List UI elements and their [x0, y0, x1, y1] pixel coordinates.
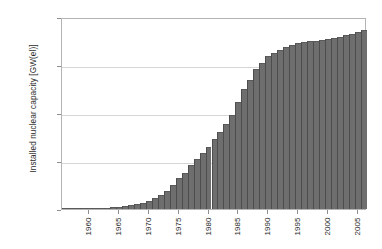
- x-axis-tick-mark: [118, 210, 119, 214]
- x-axis-tick-mark: [357, 210, 358, 214]
- x-axis-tick-label: 1960: [83, 210, 92, 244]
- bar: [361, 30, 367, 209]
- x-axis-tick-mark: [267, 210, 268, 214]
- x-axis-tick-label: 1995: [293, 210, 302, 244]
- x-axis-tick-label: 1965: [113, 210, 122, 244]
- x-axis-tick-label: 1975: [173, 210, 182, 244]
- x-axis-tick-mark: [208, 210, 209, 214]
- x-axis-tick-mark: [178, 210, 179, 214]
- x-axis-tick-label: 2000: [323, 210, 332, 244]
- y-axis-tick-mark: [57, 210, 61, 211]
- x-axis-tick-mark: [88, 210, 89, 214]
- x-axis-tick-label: 1985: [233, 210, 242, 244]
- chart-figure: Installed nuclear capacity [GW(el)] 4003…: [0, 0, 382, 249]
- x-axis-tick-label: 2005: [353, 210, 362, 244]
- x-axis-tick-mark: [237, 210, 238, 214]
- x-axis-tick-mark: [148, 210, 149, 214]
- plot-area: [61, 18, 366, 210]
- x-axis-tick-mark: [327, 210, 328, 214]
- x-axis-tick-label: 1980: [203, 210, 212, 244]
- x-axis-tick-label: 1990: [263, 210, 272, 244]
- x-axis-tick-mark: [297, 210, 298, 214]
- x-axis-tick-label: 1970: [143, 210, 152, 244]
- bar-series: [62, 19, 365, 209]
- y-axis-title: Installed nuclear capacity [GW(el)]: [29, 14, 38, 204]
